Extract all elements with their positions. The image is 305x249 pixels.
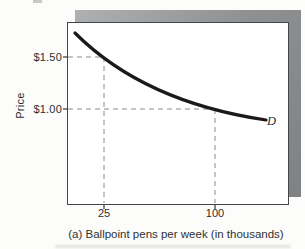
y-tick-label-100: $1.00 xyxy=(26,103,62,115)
figure-caption: (a) Ballpoint pens per week (in thousand… xyxy=(46,228,305,240)
x-tick-label-100: 100 xyxy=(200,207,230,219)
demand-curve-label: D xyxy=(267,115,276,127)
y-axis-title: Price xyxy=(14,86,27,126)
x-tick-label-25: 25 xyxy=(89,207,119,219)
scan-artifact-top xyxy=(33,0,42,3)
y-tick-label-150: $1.50 xyxy=(26,51,62,63)
demand-curve-figure: $1.50 $1.00 Price 25 100 D (a) Ballpoint… xyxy=(0,0,305,249)
scan-artifact-bottom xyxy=(55,245,291,248)
plot-area xyxy=(67,22,289,205)
